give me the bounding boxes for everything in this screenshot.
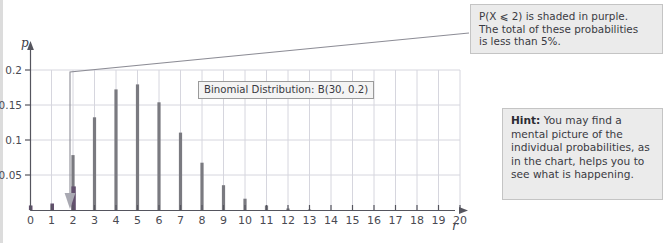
probability-callout-line-3: is less than 5%. [479,35,655,48]
x-tick-label-14: 14 [321,214,341,227]
x-tick-label-5: 5 [128,214,148,227]
y-axis-label: p [21,36,29,50]
bar-r5 [114,89,117,210]
bar-r6 [136,84,139,210]
x-axis [31,205,461,211]
x-tick-label-11: 11 [257,214,277,227]
hint-label: Hint [511,114,536,126]
x-tick-label-16: 16 [364,214,384,227]
x-tick-label-7: 7 [171,214,191,227]
probability-callout: P(X ⩽ 2) is shaded in purple. The total … [470,4,663,54]
x-tick-label-9: 9 [214,214,234,227]
y-axis [25,48,31,211]
x-axis-arrowhead [459,207,468,214]
y-tick-label-0.05: 0.05 [0,169,22,181]
x-tick-label-3: 3 [85,214,105,227]
x-tick-label-18: 18 [407,214,427,227]
y-tick-label-0.2: 0.2 [0,64,22,76]
x-tick-label-1: 1 [42,214,62,227]
x-tick-label-8: 8 [192,214,212,227]
x-tick-label-10: 10 [235,214,255,227]
bar-r9 [200,163,203,210]
callout-leader-line [70,33,469,196]
bars-series [71,84,311,210]
bar-r8 [179,133,182,210]
x-tick-label-13: 13 [300,214,320,227]
x-tick-label-15: 15 [343,214,363,227]
y-tick-label-0.15: 0.15 [0,99,22,111]
bar-r7 [157,102,160,210]
y-tick-label-0.1: 0.1 [0,134,22,146]
x-tick-label-20: 20 [450,214,470,227]
x-tick-label-17: 17 [386,214,406,227]
x-tick-label-19: 19 [429,214,449,227]
x-tick-label-0: 0 [21,214,41,227]
chart-title-label: Binomial Distribution: B(30, 0.2) [198,81,374,99]
probability-callout-line-2: The total of these probabilities [479,23,655,36]
x-tick-label-2: 2 [63,214,83,227]
x-tick-label-12: 12 [278,214,298,227]
x-tick-label-6: 6 [149,214,169,227]
figure-root: p r 0.05 0.1 0.15 0.2 0 1 2 3 4 5 6 7 8 … [0,0,670,243]
hint-callout: Hint: You may find a mental picture of t… [502,108,663,200]
probability-callout-line-1: P(X ⩽ 2) is shaded in purple. [479,10,655,23]
bar-r4 [93,117,96,210]
x-tick-label-4: 4 [106,214,126,227]
